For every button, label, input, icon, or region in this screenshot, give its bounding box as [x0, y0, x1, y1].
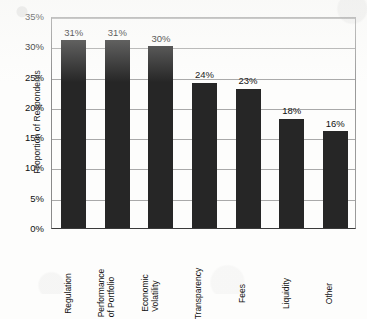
x-axis-tick: EconomicVolatility: [138, 231, 182, 293]
bar-group: 16%: [323, 18, 348, 228]
y-axis-tick: 35%: [25, 12, 44, 22]
y-axis-tick: 15%: [25, 133, 44, 143]
y-axis-tick: 30%: [25, 43, 44, 53]
y-axis-tick: 20%: [25, 103, 44, 113]
x-axis-tick-label: Other: [325, 282, 335, 303]
bar-group: 31%: [61, 18, 86, 228]
x-axis-tick: Transparency: [182, 231, 226, 293]
x-axis-tick: Performanceof Portfolio: [95, 231, 139, 293]
x-axis-tick-label: Performanceof Portfolio: [97, 269, 116, 318]
bars-layer: 31%31%30%24%23%18%16%: [52, 18, 355, 228]
x-axis-tick-labels: RegulationPerformanceof PortfolioEconomi…: [51, 231, 356, 293]
x-axis-tick-label: EconomicVolatility: [141, 274, 160, 311]
bar-value-label: 31%: [108, 28, 127, 38]
y-axis-tick: 0%: [30, 224, 44, 234]
x-axis-tick-label: Liquidity: [281, 277, 291, 308]
bar-group: 30%: [148, 18, 173, 228]
x-axis-tick-label: Fees: [238, 284, 248, 303]
bar-group: 31%: [105, 18, 130, 228]
y-axis-tick: 5%: [30, 194, 44, 204]
y-axis-tick-labels: 0%5%10%15%20%25%30%35%: [0, 0, 48, 294]
x-axis-tick-label: Transparency: [194, 267, 204, 319]
bar: [148, 46, 173, 228]
bar-value-label: 16%: [326, 119, 345, 129]
bar: [279, 119, 304, 228]
x-axis-tick: Regulation: [51, 231, 95, 293]
x-axis-tick: Other: [312, 231, 356, 293]
bar: [323, 131, 348, 228]
bar: [61, 40, 86, 228]
bar-group: 24%: [192, 18, 217, 228]
bar: [105, 40, 130, 228]
plot-area: 31%31%30%24%23%18%16%: [51, 17, 356, 229]
bar-value-label: 30%: [151, 34, 170, 44]
bar: [192, 83, 217, 228]
bar-value-label: 24%: [195, 70, 214, 80]
x-axis-tick: Liquidity: [269, 231, 313, 293]
y-axis-tick: 25%: [25, 73, 44, 83]
x-axis-tick-label: Regulation: [63, 273, 73, 314]
y-axis-tick: 10%: [25, 164, 44, 174]
bar: [236, 89, 261, 228]
x-axis-tick: Fees: [225, 231, 269, 293]
bar-group: 23%: [236, 18, 261, 228]
bar-value-label: 23%: [239, 76, 258, 86]
bar-group: 18%: [279, 18, 304, 228]
bar-value-label: 31%: [64, 28, 83, 38]
bar-value-label: 18%: [282, 106, 301, 116]
